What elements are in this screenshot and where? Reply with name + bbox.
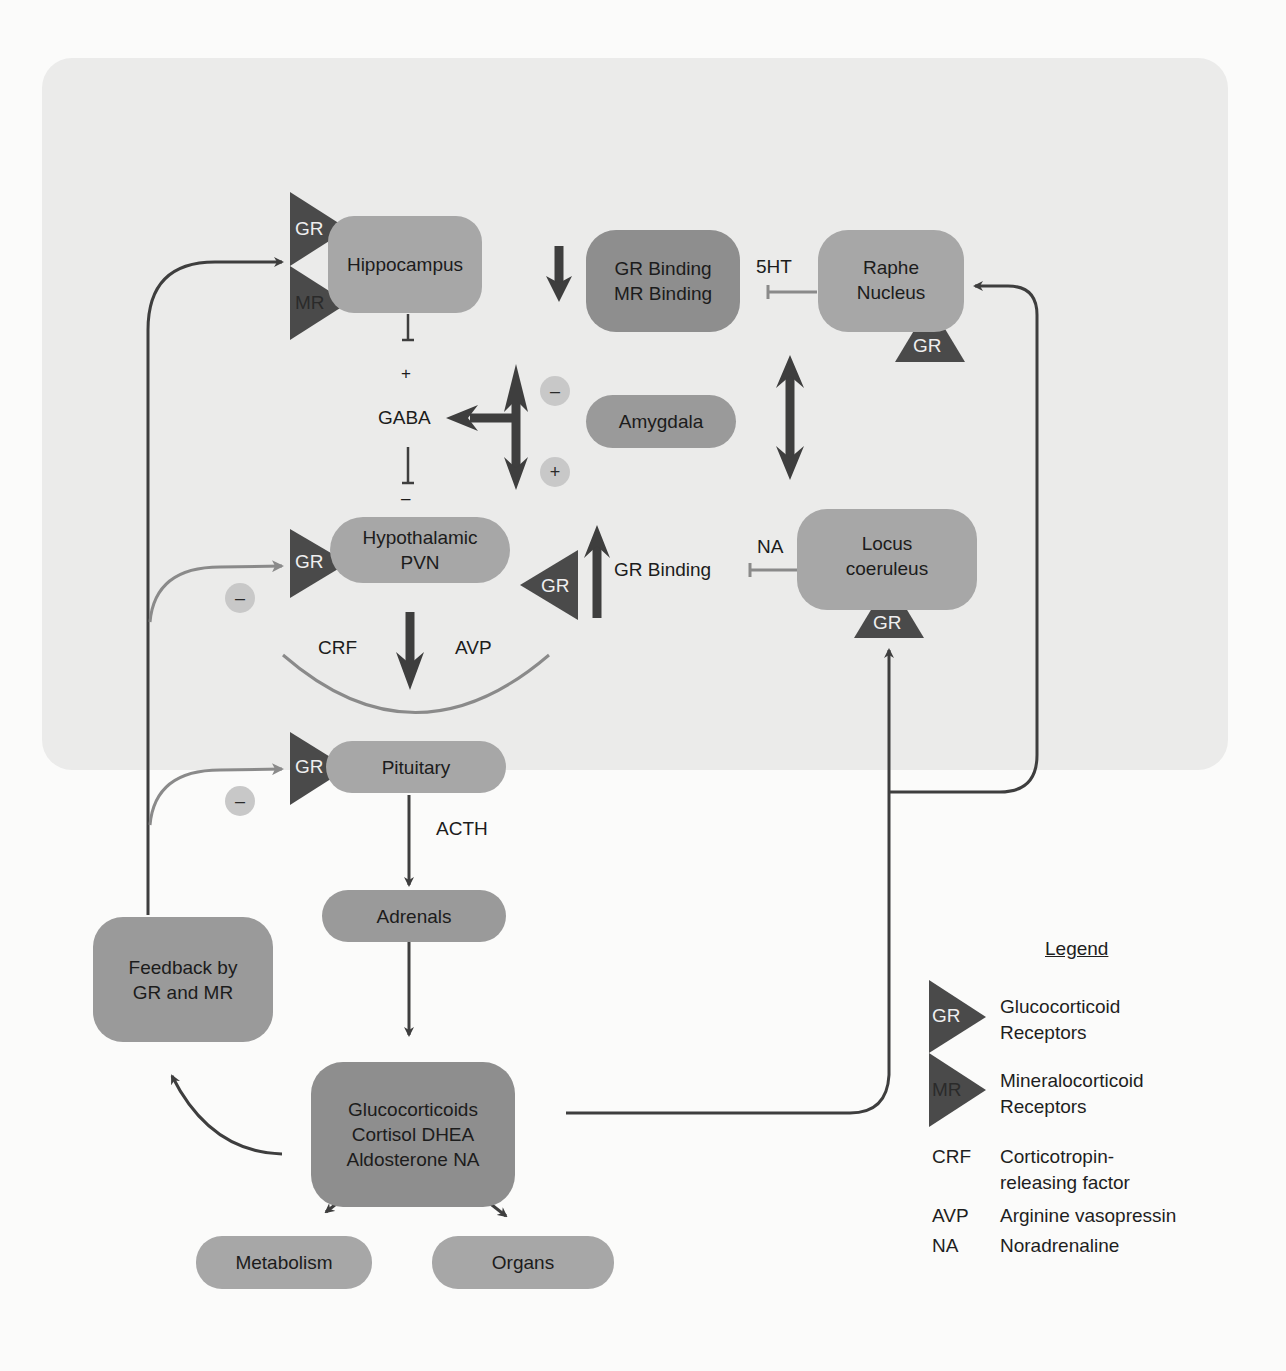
crf-label: CRF — [318, 637, 357, 659]
locus-coeruleus-node: Locus coeruleus — [797, 509, 977, 610]
legend-gr-desc: Glucocorticoid Receptors — [1000, 994, 1120, 1046]
na-label: NA — [757, 536, 783, 558]
legend-avp-desc: Arginine vasopressin — [1000, 1203, 1176, 1229]
nucleus-label: Nucleus — [857, 280, 926, 305]
plus-sign: + — [550, 462, 561, 483]
locus-gr-label: GR — [873, 612, 902, 634]
raphe-label: Raphe — [863, 255, 919, 280]
hypothalamic-label: Hypothalamic — [362, 525, 477, 550]
minus-sign: – — [235, 588, 245, 609]
organs-node: Organs — [432, 1236, 614, 1289]
minus-circle-amygdala: – — [540, 376, 570, 406]
hypothalamic-pvn-node: Hypothalamic PVN — [330, 517, 510, 583]
metabolism-label: Metabolism — [235, 1250, 332, 1275]
glucocorticoids-label: Glucocorticoids — [348, 1097, 478, 1122]
hippocampus-mr-label: MR — [295, 292, 325, 314]
hippocampus-node: Hippocampus — [328, 216, 482, 313]
minus-circle-pvn: – — [225, 583, 255, 613]
gluco-to-locus-arrow — [566, 650, 889, 1113]
glucocorticoids-node: Glucocorticoids Cortisol DHEA Aldosteron… — [311, 1062, 515, 1207]
legend-crf-desc: Corticotropin- releasing factor — [1000, 1144, 1130, 1196]
binding-gr-label: GR — [541, 575, 570, 597]
minus-sign-label: – — [401, 489, 410, 509]
gluco-to-feedback-arrow — [172, 1076, 282, 1154]
pvn-gr-label: GR — [295, 551, 324, 573]
amygdala-label: Amygdala — [619, 409, 704, 434]
avp-label: AVP — [455, 637, 492, 659]
legend-na-desc: Noradrenaline — [1000, 1233, 1119, 1259]
legend-crf-line2: releasing factor — [1000, 1170, 1130, 1196]
adrenals-label: Adrenals — [377, 904, 452, 929]
raphe-gr-label: GR — [913, 335, 942, 357]
amygdala-node: Amygdala — [586, 395, 736, 448]
legend-mr-key: MR — [932, 1079, 962, 1101]
legend-mr-line2: Receptors — [1000, 1094, 1144, 1120]
5ht-label: 5HT — [756, 256, 792, 278]
feedback-to-hippocampus-arrow — [148, 262, 282, 915]
gr-binding-label: GR Binding — [614, 256, 711, 281]
hippocampus-gr-label: GR — [295, 218, 324, 240]
locus-label: Locus — [862, 531, 913, 556]
coeruleus-label: coeruleus — [846, 556, 928, 581]
hippocampus-label: Hippocampus — [347, 252, 463, 277]
legend-gr-line1: Glucocorticoid — [1000, 994, 1120, 1020]
minus-circle-pituitary: – — [225, 786, 255, 816]
mr-binding-label: MR Binding — [614, 281, 712, 306]
legend-title: Legend — [1045, 938, 1108, 960]
legend-crf-line1: Corticotropin- — [1000, 1144, 1130, 1170]
binding-node: GR Binding MR Binding — [586, 230, 740, 332]
feedback-to-pvn-arrow — [150, 566, 282, 622]
organs-label: Organs — [492, 1250, 554, 1275]
legend-gr-key: GR — [932, 1005, 961, 1027]
pituitary-node: Pituitary — [326, 741, 506, 793]
legend-mr-desc: Mineralocorticoid Receptors — [1000, 1068, 1144, 1120]
feedback-line2: GR and MR — [133, 980, 233, 1005]
acth-label: ACTH — [436, 818, 488, 840]
pvn-label: PVN — [400, 550, 439, 575]
feedback-to-pituitary-arrow — [150, 769, 282, 825]
feedback-line1: Feedback by — [129, 955, 238, 980]
gr-binding-label: GR Binding — [614, 559, 711, 581]
cortisol-dhea-label: Cortisol DHEA — [352, 1122, 474, 1147]
legend-avp-key: AVP — [932, 1203, 969, 1229]
legend-mr-line1: Mineralocorticoid — [1000, 1068, 1144, 1094]
plus-circle-amygdala: + — [540, 457, 570, 487]
legend-crf-key: CRF — [932, 1144, 971, 1170]
legend-gr-line2: Receptors — [1000, 1020, 1120, 1046]
metabolism-node: Metabolism — [196, 1236, 372, 1289]
legend-na-key: NA — [932, 1233, 958, 1259]
feedback-node: Feedback by GR and MR — [93, 917, 273, 1042]
gaba-label: GABA — [378, 407, 431, 429]
aldosterone-na-label: Aldosterone NA — [346, 1147, 479, 1172]
minus-sign: – — [235, 791, 245, 812]
plus-sign-label: + — [401, 364, 411, 384]
pituitary-gr-label: GR — [295, 756, 324, 778]
adrenals-node: Adrenals — [322, 890, 506, 942]
minus-sign: – — [550, 381, 560, 402]
pituitary-label: Pituitary — [382, 755, 451, 780]
raphe-nucleus-node: Raphe Nucleus — [818, 230, 964, 332]
